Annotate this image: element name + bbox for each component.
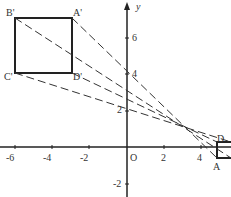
y-axis-arrow-icon: [124, 2, 130, 10]
x-tick-label: 2: [161, 153, 166, 163]
y-tick-label: -2: [113, 179, 121, 189]
y-tick-label: 2: [117, 105, 122, 115]
x-tick-label: -4: [43, 153, 51, 163]
vertex-label-d-prime: D': [73, 72, 82, 82]
vertex-label-a: A: [213, 162, 220, 172]
y-tick-label: 4: [132, 69, 137, 79]
x-tick-label: -2: [80, 153, 88, 163]
y-axis-label: y: [136, 2, 140, 12]
y-tick-label: 6: [132, 33, 137, 43]
projection-lines: [15, 18, 231, 158]
vertex-label-c-prime: C': [4, 72, 12, 82]
vertex-label-b-prime: B': [6, 8, 14, 18]
image-square: [15, 18, 72, 73]
coordinate-plane: [0, 0, 231, 197]
vertex-label-d: D: [217, 134, 224, 144]
x-tick-label: 4: [197, 153, 202, 163]
vertex-label-a-prime: A': [73, 8, 82, 18]
origin-label: O: [130, 153, 137, 163]
x-tick-label: -6: [6, 153, 14, 163]
